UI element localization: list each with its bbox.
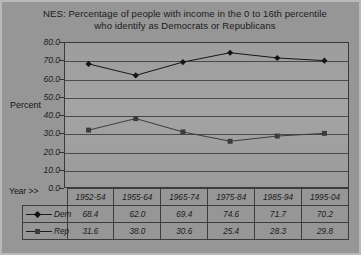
data-point xyxy=(133,72,139,78)
y-tick-label: 40.0 xyxy=(22,110,60,120)
legend-entry: Dem xyxy=(25,210,67,219)
table-value-cell: 25.4 xyxy=(208,223,255,240)
table-value-cell: 74.6 xyxy=(208,206,255,223)
legend-cell-rep: Rep xyxy=(23,223,68,240)
table-value-cell: 70.2 xyxy=(302,206,349,223)
table-header-cell: 1955-64 xyxy=(114,189,161,206)
data-table: 1952-541955-641965-741975-841985-941995-… xyxy=(22,188,349,240)
table-header-cell: 1975-84 xyxy=(208,189,255,206)
y-tick-label: 60.0 xyxy=(22,74,60,84)
legend-marker-square-icon xyxy=(35,229,40,234)
table-value-cell: 71.7 xyxy=(255,206,302,223)
legend-marker-diamond-icon xyxy=(34,210,41,217)
table-value-cell: 69.4 xyxy=(161,206,208,223)
table-value-cell: 38.0 xyxy=(114,223,161,240)
table-header-cell: 1952-54 xyxy=(67,189,114,206)
table-value-cell: 29.8 xyxy=(302,223,349,240)
y-tick-label: 20.0 xyxy=(22,147,60,157)
data-point xyxy=(227,50,233,56)
series-layer xyxy=(65,43,348,187)
chart-title-line-1: NES: Percentage of people with income in… xyxy=(20,8,350,20)
table-value-cell: 30.6 xyxy=(161,223,208,240)
data-point xyxy=(180,59,186,65)
y-tick-label: 80.0 xyxy=(22,37,60,47)
data-point xyxy=(133,116,138,121)
series-line xyxy=(89,119,325,142)
series-rep xyxy=(86,116,327,144)
y-tick-label: 10.0 xyxy=(22,165,60,175)
legend-cell-dem: Dem xyxy=(23,206,68,223)
chart-title: NES: Percentage of people with income in… xyxy=(20,8,350,32)
data-point xyxy=(275,134,280,139)
table-row: Rep31.638.030.625.428.329.8 xyxy=(23,223,349,240)
data-point xyxy=(321,58,327,64)
table-row: Dem68.462.069.474.671.770.2 xyxy=(23,206,349,223)
table-value-cell: 28.3 xyxy=(255,223,302,240)
data-point xyxy=(180,129,185,134)
data-point xyxy=(228,139,233,144)
series-dem xyxy=(86,50,328,79)
table-header-cell: 1985-94 xyxy=(255,189,302,206)
table-body: Dem68.462.069.474.671.770.2Rep31.638.030… xyxy=(23,206,349,240)
y-tick-label: 70.0 xyxy=(22,55,60,65)
legend-label: Rep xyxy=(54,227,69,236)
table-value-cell: 31.6 xyxy=(67,223,114,240)
table-header-cell: 1965-74 xyxy=(161,189,208,206)
data-point xyxy=(322,131,327,136)
y-axis-title: Percent xyxy=(10,100,41,110)
legend-label: Dem xyxy=(54,210,71,219)
legend-entry: Rep xyxy=(25,227,67,236)
plot-area xyxy=(64,42,349,188)
table-value-cell: 68.4 xyxy=(67,206,114,223)
y-axis-labels: 0.010.020.030.040.050.060.070.080.0 xyxy=(22,36,60,188)
legend-line-sample xyxy=(26,211,52,218)
table-corner-cell xyxy=(23,189,68,206)
chart-title-line-2: who identify as Democrats or Republicans xyxy=(20,20,350,32)
chart-container: NES: Percentage of people with income in… xyxy=(0,0,361,255)
data-point xyxy=(274,55,280,61)
data-point xyxy=(86,61,92,67)
table-header-cell: 1995-04 xyxy=(302,189,349,206)
table-value-cell: 62.0 xyxy=(114,206,161,223)
legend-line-sample xyxy=(26,228,52,235)
series-line xyxy=(89,53,325,76)
y-tick-label: 30.0 xyxy=(22,128,60,138)
data-point xyxy=(86,128,91,133)
table-header-row: 1952-541955-641965-741975-841985-941995-… xyxy=(23,189,349,206)
